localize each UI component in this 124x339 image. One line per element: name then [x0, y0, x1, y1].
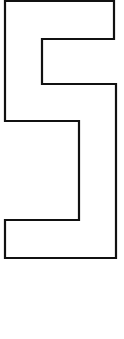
digit-five-shape [5, 1, 116, 258]
digit-five-canvas: 5 [0, 0, 124, 339]
digit-five-outline: 5 [0, 0, 124, 339]
